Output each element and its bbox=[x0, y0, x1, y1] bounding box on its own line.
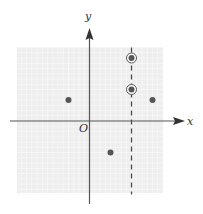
data-point bbox=[150, 97, 156, 103]
y-axis-label: y bbox=[84, 10, 92, 23]
data-point bbox=[66, 97, 72, 103]
coordinate-plane: x y O bbox=[0, 0, 203, 214]
x-axis-label: x bbox=[187, 115, 194, 128]
data-point bbox=[129, 55, 135, 61]
data-point bbox=[129, 87, 135, 93]
origin-label: O bbox=[79, 122, 88, 135]
data-point bbox=[108, 150, 114, 156]
